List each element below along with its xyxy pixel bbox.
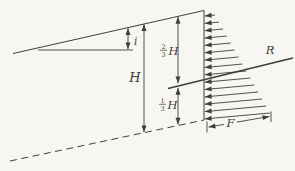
pressure-arrow xyxy=(205,57,239,60)
width-dimension-right-arrow xyxy=(237,116,270,122)
wall-height-label: H xyxy=(128,70,141,85)
pressure-arrow xyxy=(205,15,215,16)
pressure-arrow xyxy=(205,78,251,82)
lower-fraction-denominator: 3 xyxy=(160,105,164,113)
base-dashed-line xyxy=(10,120,204,161)
upper-fraction-numerator: 2 xyxy=(161,43,165,51)
upper-fraction-denominator: 3 xyxy=(161,51,165,59)
upper-height-symbol: H xyxy=(168,44,180,58)
pressure-arrow xyxy=(205,85,255,90)
slope-angle-label: i xyxy=(134,35,137,47)
pressure-arrow xyxy=(205,106,266,112)
diagram-canvas: i H 2 3 H 1 3 H R xyxy=(0,0,295,171)
lower-height-symbol: H xyxy=(167,98,179,112)
pressure-arrow xyxy=(205,92,259,97)
earth-pressure-diagram: i H 2 3 H 1 3 H R xyxy=(0,0,295,171)
pressure-arrow xyxy=(205,36,227,38)
pressure-arrow xyxy=(205,29,223,31)
pressure-base-width-label: F xyxy=(226,116,236,130)
resultant-label: R xyxy=(265,43,275,57)
pressure-arrow xyxy=(205,22,219,23)
pressure-arrow xyxy=(205,50,235,53)
lower-fraction-numerator: 1 xyxy=(160,97,164,105)
resultant-line xyxy=(168,58,293,89)
pressure-distribution xyxy=(205,15,270,119)
pressure-arrow xyxy=(205,64,243,68)
upper-height-label: 2 3 H xyxy=(160,43,180,59)
width-dimension: F xyxy=(207,112,271,133)
pressure-arrow xyxy=(205,43,231,45)
pressure-arrow xyxy=(205,99,263,104)
lower-height-label: 1 3 H xyxy=(159,97,179,113)
width-dimension-left-arrow xyxy=(209,124,225,127)
